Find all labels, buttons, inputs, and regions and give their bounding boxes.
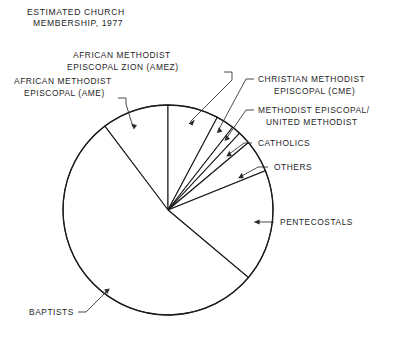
chart-canvas: ESTIMATED CHURCH MEMBERSHIP, 1977 xyxy=(0,0,401,340)
label-united-methodist-line-1: METHODIST EPISCOPAL/ xyxy=(258,105,370,115)
label-baptists: BAPTISTS xyxy=(29,307,74,317)
label-amez-line-2: EPISCOPAL ZION (AMEZ) xyxy=(67,62,179,72)
label-pentecostals: PENTECOSTALS xyxy=(280,217,353,227)
chart-title: ESTIMATED CHURCH MEMBERSHIP, 1977 xyxy=(27,7,125,28)
pie-chart-figure: ESTIMATED CHURCH MEMBERSHIP, 1977 xyxy=(0,0,401,340)
title-line-2: MEMBERSHIP, 1977 xyxy=(33,18,123,28)
label-cme-line-1: CHRISTIAN METHODIST xyxy=(258,74,365,84)
pie-slices xyxy=(63,105,273,315)
label-united-methodist-line-2: UNITED METHODIST xyxy=(266,117,358,127)
title-line-1: ESTIMATED CHURCH xyxy=(27,7,125,17)
label-others: OTHERS xyxy=(274,162,312,172)
label-catholics: CATHOLICS xyxy=(258,138,310,148)
label-amez-line-1: AFRICAN METHODIST xyxy=(73,50,171,60)
label-cme-line-2: EPISCOPAL (CME) xyxy=(274,86,355,96)
label-ame-line-2: EPISCOPAL (AME) xyxy=(24,88,105,98)
label-ame-line-1: AFRICAN METHODIST xyxy=(14,76,112,86)
